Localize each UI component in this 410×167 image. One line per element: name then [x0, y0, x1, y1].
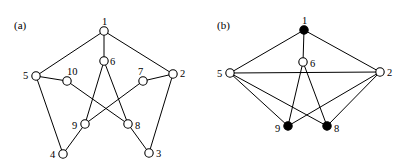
node-label: 8	[135, 121, 140, 132]
graph-edge	[104, 61, 128, 124]
graph-node[interactable]	[139, 77, 147, 85]
node-label: 9	[275, 124, 280, 135]
node-label: 7	[138, 67, 143, 78]
node-label: 6	[110, 57, 115, 68]
node-label: 6	[310, 59, 315, 70]
graph-node[interactable]	[100, 57, 108, 65]
panel-caption-b: (b)	[217, 20, 230, 31]
graph-edge	[36, 76, 63, 154]
graph-node[interactable]	[323, 122, 331, 130]
figure-root: (a) 12345678910 (b) 125689	[0, 0, 410, 167]
graph-edge	[288, 72, 380, 126]
graph-node[interactable]	[100, 27, 108, 35]
node-label: 10	[67, 67, 78, 78]
graph-edge	[303, 30, 304, 62]
node-label: 1	[302, 16, 307, 27]
graph-drawing-b	[205, 0, 410, 167]
graph-edge	[303, 62, 327, 126]
graph-node[interactable]	[226, 69, 234, 77]
edge-group	[230, 30, 380, 126]
graph-node[interactable]	[169, 70, 177, 78]
node-label: 4	[50, 150, 55, 161]
graph-node[interactable]	[300, 26, 308, 34]
graph-node[interactable]	[81, 120, 89, 128]
graph-edge	[230, 30, 304, 73]
panel-caption-a: (a)	[14, 20, 26, 31]
graph-node[interactable]	[59, 150, 67, 158]
node-label: 2	[180, 69, 185, 80]
graph-edge	[230, 72, 380, 73]
node-label: 2	[387, 68, 392, 79]
graph-node[interactable]	[376, 68, 384, 76]
graph-node[interactable]	[145, 149, 153, 157]
node-label: 5	[23, 71, 28, 82]
graph-node[interactable]	[124, 120, 132, 128]
graph-edge	[149, 74, 173, 153]
graph-edge	[67, 81, 128, 124]
node-label: 9	[72, 121, 77, 132]
node-label: 5	[217, 69, 222, 80]
graph-panel-a: (a) 12345678910	[0, 0, 205, 167]
node-label: 3	[156, 149, 161, 160]
graph-edge	[288, 62, 303, 126]
graph-edge	[230, 73, 327, 126]
graph-edge	[85, 61, 104, 124]
graph-panel-b: (b) 125689	[205, 0, 410, 167]
graph-node[interactable]	[299, 58, 307, 66]
graph-edge	[304, 30, 380, 72]
edge-group	[36, 31, 173, 154]
node-label: 1	[102, 17, 107, 28]
graph-node[interactable]	[63, 77, 71, 85]
graph-node[interactable]	[32, 72, 40, 80]
graph-node[interactable]	[284, 122, 292, 130]
node-label: 8	[334, 124, 339, 135]
